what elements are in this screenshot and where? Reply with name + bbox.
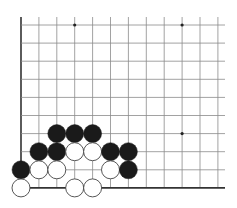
stones-layer — [12, 125, 137, 197]
black-stone — [30, 143, 48, 161]
star-point-icon — [181, 132, 184, 135]
white-stone — [66, 179, 84, 197]
white-stone — [30, 161, 48, 179]
star-point-icon — [73, 23, 76, 26]
black-stone — [119, 143, 137, 161]
white-stone — [102, 161, 120, 179]
black-stone — [66, 125, 84, 143]
white-stone — [66, 143, 84, 161]
black-stone — [102, 143, 120, 161]
black-stone — [48, 125, 66, 143]
white-stone — [84, 143, 102, 161]
white-stone — [48, 161, 66, 179]
go-board[interactable] — [0, 0, 237, 208]
white-stone — [84, 179, 102, 197]
black-stone — [119, 161, 137, 179]
black-stone — [84, 125, 102, 143]
black-stone — [48, 143, 66, 161]
star-point-icon — [181, 23, 184, 26]
black-stone — [12, 161, 30, 179]
white-stone — [12, 179, 30, 197]
